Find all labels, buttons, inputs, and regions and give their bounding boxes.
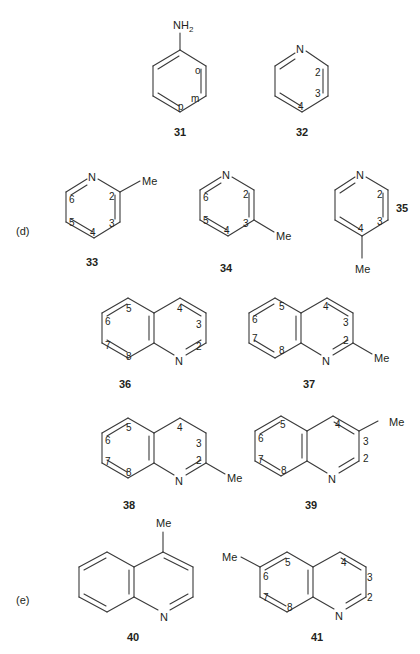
- compound-40-4-methylquinoline: N Me 40: [79, 517, 193, 643]
- compound-38-2-methyl-dihydroquinoline: N Me 2 3 4 5 6 7 8 38: [102, 418, 242, 511]
- position-6: 6: [258, 433, 264, 444]
- compound-32-pyridine: N 2 3 4 32: [275, 43, 328, 138]
- compound-number: 34: [220, 262, 233, 274]
- nitrogen-atom: N: [160, 611, 168, 623]
- position-5: 5: [126, 303, 132, 314]
- position-3: 3: [367, 572, 373, 583]
- compound-31-aniline: NH2 o m p 31: [153, 19, 206, 138]
- position-6: 6: [69, 194, 75, 205]
- compound-number: 35: [396, 202, 408, 214]
- position-4: 4: [358, 223, 364, 234]
- compound-number: 39: [305, 499, 317, 511]
- position-2: 2: [315, 67, 321, 78]
- position-5: 5: [203, 215, 209, 226]
- position-5: 5: [280, 419, 286, 430]
- position-5: 5: [126, 422, 132, 433]
- nitrogen-atom: N: [88, 171, 96, 183]
- position-2: 2: [196, 341, 202, 352]
- position-para: p: [178, 101, 184, 112]
- position-6: 6: [263, 571, 269, 582]
- amino-group-label: NH2: [173, 19, 194, 34]
- methyl-label: Me: [355, 263, 370, 275]
- position-3: 3: [343, 317, 349, 328]
- nitrogen-atom: N: [322, 355, 330, 367]
- position-2: 2: [377, 189, 383, 200]
- position-5: 5: [279, 301, 285, 312]
- position-4: 4: [177, 422, 183, 433]
- nitrogen-atom: N: [335, 610, 343, 622]
- position-7: 7: [252, 333, 258, 344]
- position-4: 4: [224, 225, 230, 236]
- nitrogen-atom: N: [328, 473, 336, 485]
- methyl-label: Me: [222, 551, 237, 563]
- methyl-label: Me: [276, 230, 291, 242]
- methyl-label: Me: [389, 416, 404, 428]
- position-4: 4: [177, 303, 183, 314]
- position-4: 4: [335, 419, 341, 430]
- compound-33-2-methylpyridine: N Me 2 3 4 5 6 33: [66, 171, 157, 268]
- position-8: 8: [126, 351, 132, 362]
- compound-number: 38: [123, 499, 135, 511]
- position-3: 3: [243, 218, 249, 229]
- part-label-d: (d): [16, 225, 29, 237]
- position-3: 3: [315, 88, 321, 99]
- methyl-label: Me: [142, 175, 157, 187]
- position-4: 4: [298, 101, 304, 112]
- position-2: 2: [363, 453, 369, 464]
- compound-number: 33: [86, 256, 98, 268]
- position-8: 8: [279, 345, 285, 356]
- compound-34-3-methylpyridine: N Me 2 3 4 5 6 34: [200, 169, 291, 274]
- part-label-e: (e): [16, 594, 29, 606]
- compound-39-3-methylquinoline: N Me 2 3 4 5 6 7 8 39: [255, 416, 404, 511]
- nitrogen-atom: N: [296, 43, 304, 55]
- compound-number: 41: [311, 631, 323, 643]
- compound-number: 32: [296, 126, 308, 138]
- position-6: 6: [252, 314, 258, 325]
- position-5: 5: [69, 217, 75, 228]
- position-6: 6: [105, 435, 111, 446]
- methyl-label: Me: [374, 352, 389, 364]
- position-6: 6: [203, 192, 209, 203]
- nitrogen-atom: N: [175, 475, 183, 487]
- compound-37-2-methylquinoline: N Me 2 3 4 5 6 7 8 37: [249, 298, 389, 390]
- position-2: 2: [196, 455, 202, 466]
- position-3: 3: [196, 438, 202, 449]
- compound-number: 40: [127, 631, 139, 643]
- position-2: 2: [243, 189, 249, 200]
- position-3: 3: [377, 216, 383, 227]
- position-meta: m: [191, 93, 199, 104]
- compound-number: 31: [174, 126, 186, 138]
- compound-number: 37: [303, 378, 315, 390]
- position-2: 2: [367, 592, 373, 603]
- position-5: 5: [285, 557, 291, 568]
- chemical-structures-figure: NH2 o m p 31 N 2 3 4 32 (d) N: [0, 0, 420, 654]
- methyl-label: Me: [156, 517, 171, 529]
- nitrogen-atom: N: [356, 169, 364, 181]
- position-3: 3: [109, 218, 115, 229]
- position-3: 3: [363, 436, 369, 447]
- position-3: 3: [196, 319, 202, 330]
- nitrogen-atom: N: [222, 169, 230, 181]
- position-2: 2: [343, 335, 349, 346]
- position-ortho: o: [195, 65, 201, 76]
- position-7: 7: [263, 592, 269, 603]
- position-7: 7: [105, 340, 111, 351]
- position-4: 4: [341, 557, 347, 568]
- position-4: 4: [90, 227, 96, 238]
- compound-41-6-methylquinoline: N Me 2 3 4 5 6 7 8 41: [222, 551, 373, 643]
- position-6: 6: [105, 316, 111, 327]
- compound-35-4-methylpyridine: N Me 2 3 4 35: [335, 169, 408, 275]
- compound-36-quinoline: N 2 3 4 5 6 7 8 36: [102, 298, 206, 390]
- nitrogen-atom: N: [175, 355, 183, 367]
- position-8: 8: [287, 602, 293, 613]
- position-2: 2: [109, 191, 115, 202]
- methyl-label: Me: [227, 472, 242, 484]
- position-4: 4: [323, 301, 329, 312]
- position-8: 8: [281, 465, 287, 476]
- position-7: 7: [258, 454, 264, 465]
- position-7: 7: [105, 456, 111, 467]
- compound-number: 36: [119, 378, 131, 390]
- position-8: 8: [126, 467, 132, 478]
